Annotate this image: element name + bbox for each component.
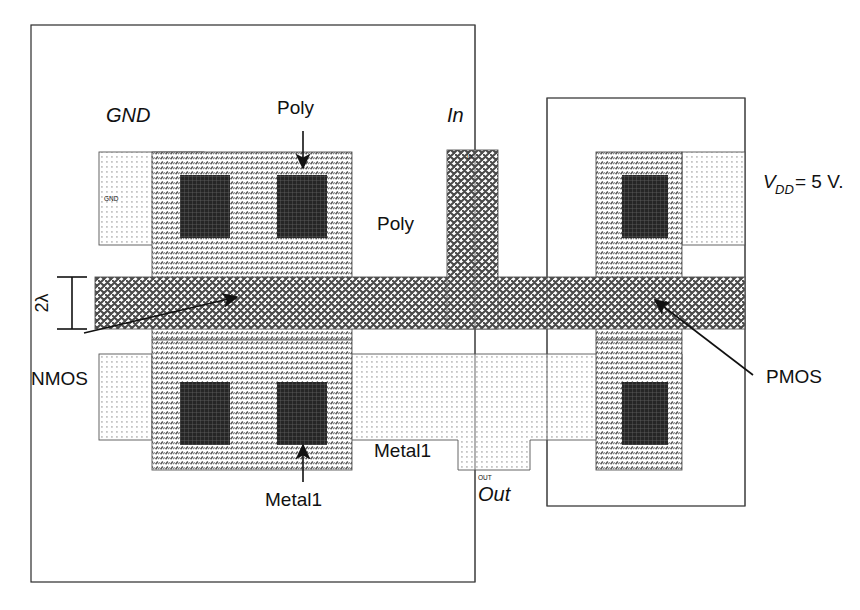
poly-right-label: Poly [377, 213, 414, 234]
lambda-dimension-marker [57, 277, 87, 329]
pmos-label: PMOS [766, 366, 822, 387]
out-label: Out [478, 483, 512, 505]
contact-pmos-source-top [622, 175, 668, 238]
contact-nmos-drain-bottom [277, 382, 327, 445]
contact-nmos-source-top [180, 175, 230, 238]
metal1-bottom-label: Metal1 [265, 489, 322, 510]
gnd-pin-label: GND [104, 195, 119, 202]
contact-pmos-drain-bottom [622, 382, 668, 445]
poly-gate-vertical-stem [447, 150, 498, 329]
metal1-lower-left-pad [99, 354, 152, 440]
cmos-inverter-layout-figure: GND In OUT 2λ GND Poly In Poly NMOS PMOS… [0, 0, 860, 610]
metal1-vdd-pad [682, 152, 745, 245]
gnd-label: GND [106, 104, 150, 126]
in-label: In [447, 104, 464, 126]
svg-text:DD: DD [775, 182, 794, 197]
svg-text:= 5 V.: = 5 V. [795, 171, 843, 192]
contact-nmos-source-bottom [180, 382, 230, 445]
lambda-dimension-label: 2λ [32, 293, 52, 312]
poly-gate-horizontal-bar [95, 277, 745, 329]
contact-nmos-drain-top [277, 175, 327, 238]
out-pin-label: OUT [478, 474, 492, 481]
nmos-label: NMOS [31, 368, 88, 389]
in-pin-label: In [467, 153, 473, 160]
poly-top-label: Poly [277, 97, 314, 118]
metal1-mid-label: Metal1 [374, 440, 431, 461]
vdd-label: V DD = 5 V. [763, 171, 843, 197]
